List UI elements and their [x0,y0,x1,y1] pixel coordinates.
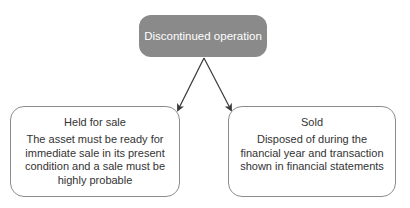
discontinued-operation-node: Discontinued operation [139,15,267,57]
held-for-sale-title: Held for sale [11,115,179,129]
discontinued-operation-label: Discontinued operation [144,30,262,42]
arrow-to-held-for-sale [178,58,204,110]
sold-description: Disposed of during the financial year an… [229,133,395,174]
arrow-to-sold [204,58,231,110]
held-for-sale-description: The asset must be ready for immediate sa… [11,133,179,187]
sold-node: Sold Disposed of during the financial ye… [228,106,396,197]
held-for-sale-node: Held for sale The asset must be ready fo… [10,106,180,197]
sold-title: Sold [229,115,395,129]
